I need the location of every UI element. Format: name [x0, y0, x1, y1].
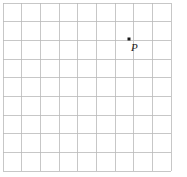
point-label-p: P [131, 42, 138, 53]
grid-figure: P [0, 0, 187, 177]
grid-lines [0, 0, 187, 177]
